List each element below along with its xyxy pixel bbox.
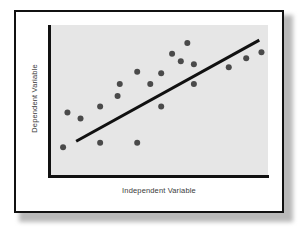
scatter-chart: Independent Variable Dependent Variable [0,0,304,231]
data-point [97,104,103,110]
x-axis-label: Independent Variable [50,186,268,195]
data-point [115,93,121,99]
trendline-segment [76,40,259,141]
data-point [147,81,153,87]
y-axis-label: Dependent Variable [30,44,39,154]
data-point [243,55,249,61]
data-point [191,61,197,67]
data-point [184,40,190,46]
plot-graphics-layer [0,0,304,231]
data-point [191,81,197,87]
data-point [60,144,66,150]
data-point [64,110,70,116]
data-point [178,58,184,64]
data-point [158,70,164,76]
data-point [158,104,164,110]
data-point [169,51,175,57]
data-point [134,69,140,75]
figure-root: Independent Variable Dependent Variable [0,0,304,231]
data-point [78,116,84,122]
data-point [258,49,264,55]
data-point [134,140,140,146]
data-point [97,140,103,146]
data-point [226,64,232,70]
data-point [117,81,123,87]
trendline [76,40,259,141]
